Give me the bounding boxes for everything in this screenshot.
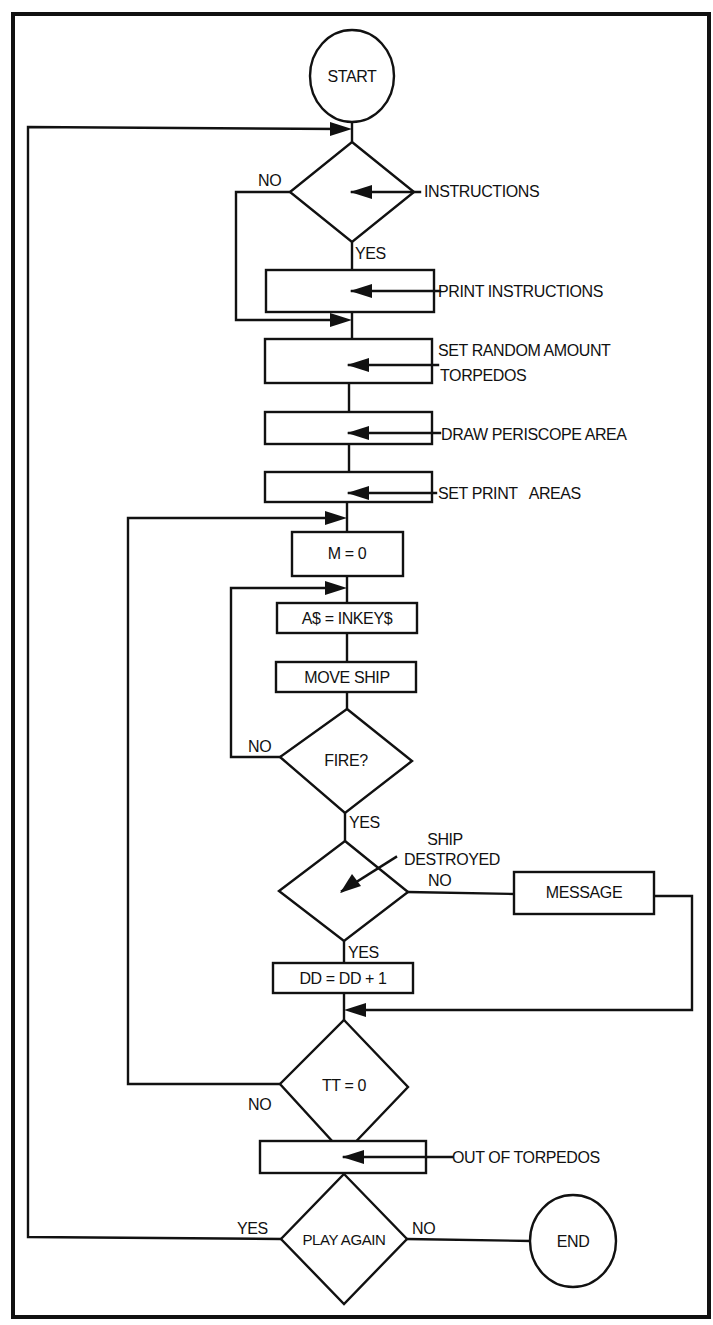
process-message: MESSAGE (514, 872, 654, 914)
instructions-no-label: NO (258, 172, 281, 189)
process-print-instructions: PRINT INSTRUCTIONS (266, 270, 603, 312)
connector-destroyed-no (408, 892, 514, 894)
play-again-label: PLAY AGAIN (303, 1231, 386, 1248)
process-draw-periscope: DRAW PERISCOPE AREA (265, 412, 627, 444)
tt-zero-label: TT = 0 (322, 1077, 366, 1094)
instructions-yes-label: YES (355, 245, 386, 262)
dd-increment-label: DD = DD + 1 (299, 970, 387, 987)
m-zero-label: M = 0 (328, 545, 367, 562)
arrow-playagain-entry (330, 122, 352, 136)
end-terminal: END (530, 1195, 616, 1287)
decision-ship-destroyed: SHIP DESTROYED NO YES (279, 831, 500, 961)
process-dd-increment: DD = DD + 1 (273, 963, 413, 993)
out-of-torpedos-annotation: OUT OF TORPEDOS (452, 1149, 600, 1166)
fire-no-label: NO (248, 738, 271, 755)
ship-destroyed-yes-label: YES (348, 944, 379, 961)
instructions-annotation: INSTRUCTIONS (424, 183, 539, 200)
process-inkey: A$ = INKEY$ (277, 603, 417, 633)
arrow-instructions-no-entry (330, 313, 352, 327)
message-label: MESSAGE (546, 884, 622, 901)
decision-fire: FIRE? NO YES (248, 709, 412, 831)
ship-destroyed-no-label: NO (428, 872, 451, 889)
start-terminal: START (310, 30, 394, 122)
process-move-ship: MOVE SHIP (276, 662, 416, 692)
flowchart-canvas: START END INSTRUCTIONS NO YES FIRE? NO Y… (0, 0, 713, 1325)
fire-yes-label: YES (349, 814, 380, 831)
draw-periscope-annotation: DRAW PERISCOPE AREA (441, 426, 627, 443)
decision-instructions: INSTRUCTIONS NO YES (258, 142, 539, 262)
play-again-yes-label: YES (237, 1220, 268, 1237)
arrow-fire-no-entry (325, 581, 347, 595)
ship-destroyed-annotation-1: SHIP (427, 831, 463, 848)
tt-zero-no-label: NO (248, 1096, 271, 1113)
fire-label: FIRE? (324, 752, 368, 769)
process-out-of-torpedos: OUT OF TORPEDOS (260, 1141, 600, 1173)
connector-play-no (407, 1239, 530, 1241)
play-again-no-label: NO (412, 1220, 435, 1237)
start-label: START (328, 68, 378, 85)
process-set-torpedos: SET RANDOM AMOUNT TORPEDOS (265, 339, 611, 384)
process-m-zero: M = 0 (292, 532, 403, 576)
process-set-print-areas: SET PRINT AREAS (265, 472, 581, 502)
end-label: END (557, 1233, 590, 1250)
arrow-message-return (344, 1003, 366, 1017)
ship-destroyed-annotation-2: DESTROYED (404, 851, 500, 868)
print-instructions-annotation: PRINT INSTRUCTIONS (438, 283, 603, 300)
set-torpedos-annotation-1: SET RANDOM AMOUNT (438, 342, 611, 359)
inkey-label: A$ = INKEY$ (302, 610, 393, 627)
set-torpedos-annotation-2: TORPEDOS (440, 367, 526, 384)
set-print-areas-annotation: SET PRINT AREAS (438, 485, 581, 502)
arrow-tt-no-entry (325, 511, 347, 525)
move-ship-label: MOVE SHIP (304, 669, 389, 686)
